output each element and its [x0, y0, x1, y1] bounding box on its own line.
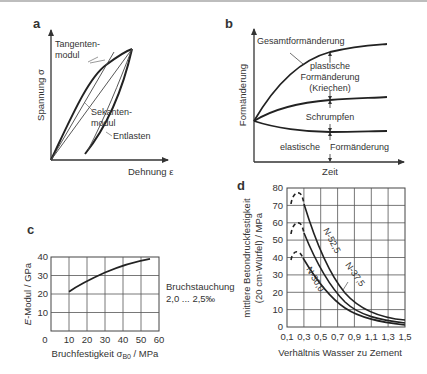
- panel-b-y-label: Formänderung: [237, 64, 248, 126]
- panel-a-tangent-label-2: modul: [55, 50, 80, 60]
- panel-b-plastic-label-2: Formänderung: [300, 72, 359, 82]
- panel-d-n375-leader: [343, 282, 348, 290]
- panel-c-y-label: E-Modul / GPa: [22, 262, 33, 325]
- panel-d-n525-dashed: [291, 193, 304, 204]
- panel-d-n300-label: N-30,0: [304, 265, 326, 293]
- panel-a-tangent-line: [51, 52, 114, 160]
- panel-d-x-label: Verhältnis Wasser zu Zement: [278, 347, 402, 358]
- panel-d-n300-dashed: [291, 252, 303, 260]
- panel-c-grid: [51, 257, 159, 331]
- panel-b-plastic-label-3: (Kriechen): [309, 83, 351, 93]
- svg-text:10: 10: [37, 307, 48, 318]
- svg-text:50: 50: [136, 334, 147, 345]
- panel-b-elastic-label-1: elastische: [280, 142, 320, 152]
- panel-d-y-ticks: 0 10 20 30 40 50 60 70 80: [272, 182, 283, 332]
- panel-c-note-line-1: Bruchstauchung: [166, 281, 235, 292]
- panel-d-n375-dashed: [291, 223, 304, 234]
- panel-a-label: a: [33, 16, 41, 31]
- panel-d-x-ticks: 0,1 0,3 0,5 0,7 0,9 1,1 1,3 1,5: [280, 331, 411, 342]
- svg-text:30: 30: [272, 269, 283, 280]
- panel-a-x-label: Dehnung ε: [128, 166, 174, 177]
- svg-text:40: 40: [118, 334, 129, 345]
- svg-text:40: 40: [37, 251, 48, 262]
- svg-text:30: 30: [100, 334, 111, 345]
- panel-c-label: c: [27, 222, 34, 237]
- svg-text:10: 10: [64, 334, 75, 345]
- panel-d-label: d: [237, 178, 245, 193]
- svg-text:20: 20: [82, 334, 93, 345]
- panel-b-total-leader: [290, 53, 303, 64]
- panel-d-y-label-2: (20 cm-Würfel) / MPa: [253, 212, 264, 303]
- panel-b: b Gesamtformänderung plastische Formände…: [225, 16, 404, 177]
- svg-text:40: 40: [272, 252, 283, 263]
- panel-a: a Tangenten- modul Sekanten- modul Entla…: [33, 16, 174, 177]
- panel-a-secant-label-2: modul: [91, 118, 116, 128]
- svg-text:20: 20: [272, 287, 283, 298]
- svg-text:20: 20: [37, 288, 48, 299]
- panel-c-x-label: Bruchfestigkeit σB0 / MPa: [52, 348, 160, 360]
- svg-text:80: 80: [272, 182, 283, 193]
- panel-b-plastic-label-1: plastische: [310, 61, 350, 71]
- panel-b-label: b: [225, 16, 233, 31]
- panel-a-tangent-leader-1: [88, 57, 98, 62]
- panel-b-elastic-label-2: Formänderung: [330, 142, 389, 152]
- panel-b-total-label: Gesamtformänderung: [257, 36, 345, 46]
- svg-text:0,3: 0,3: [297, 331, 310, 342]
- svg-text:0,7: 0,7: [331, 331, 344, 342]
- svg-text:50: 50: [272, 234, 283, 245]
- svg-text:70: 70: [272, 200, 283, 211]
- svg-text:60: 60: [272, 217, 283, 228]
- panel-d: d N-52,5 N-37,5 N-30,0: [237, 178, 412, 358]
- svg-text:0,9: 0,9: [348, 331, 361, 342]
- svg-text:1,5: 1,5: [398, 331, 411, 342]
- svg-text:30: 30: [37, 270, 48, 281]
- panel-d-n525-label: N-52,5: [321, 226, 343, 255]
- svg-text:10: 10: [272, 304, 283, 315]
- panel-b-shrink-label: Schrumpfen: [306, 112, 355, 122]
- svg-text:0,1: 0,1: [280, 331, 293, 342]
- svg-text:0: 0: [42, 334, 47, 345]
- panel-a-unload-leader: [106, 132, 112, 136]
- panel-c-note-line-2: 2,0 ... 2,5‰: [166, 293, 216, 304]
- svg-text:1,3: 1,3: [381, 331, 394, 342]
- svg-text:0,5: 0,5: [314, 331, 327, 342]
- panel-a-tangent-label-1: Tangenten-: [55, 39, 100, 49]
- panel-c: c 40 30 20 10 0 10 20 30 40 5: [22, 222, 235, 360]
- panel-b-elastic-curve: [254, 121, 387, 132]
- svg-text:60: 60: [154, 334, 165, 345]
- svg-text:1,1: 1,1: [365, 331, 378, 342]
- panel-b-x-label: Zeit: [322, 166, 338, 177]
- figure-canvas: a Tangenten- modul Sekanten- modul Entla…: [0, 0, 427, 374]
- panel-a-secant-label-1: Sekanten-: [91, 107, 132, 117]
- panel-c-x-ticks: 0 10 20 30 40 50 60: [42, 334, 164, 345]
- panel-d-y-label-1: mittlere Betondruckfestigkeit: [241, 198, 252, 318]
- panel-a-y-label: Spannung σ: [35, 69, 46, 121]
- panel-a-unload-label: Entlasten: [113, 131, 151, 141]
- panel-a-tangent-leader-2: [90, 60, 105, 63]
- panel-c-y-ticks: 40 30 20 10: [37, 251, 48, 318]
